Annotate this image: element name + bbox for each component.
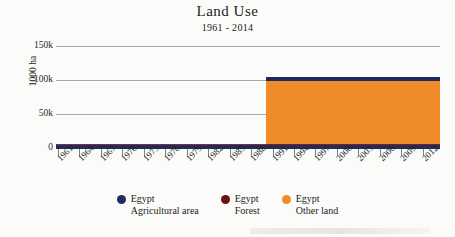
legend-label-country: Egypt [296, 193, 339, 205]
legend-label-metric: Agricultural area [131, 205, 199, 217]
gridline-150k [56, 46, 440, 47]
legend-marker-dot-icon [282, 195, 291, 204]
y-tick-label-0: 0 [5, 142, 53, 152]
y-tick-label-100k: 100k [5, 74, 53, 84]
series-area-other-land [266, 81, 440, 148]
series-area-other-land-cap [266, 77, 440, 81]
chart-legend: EgyptAgricultural areaEgyptForestEgyptOt… [0, 193, 455, 217]
legend-item[interactable]: EgyptForest [221, 193, 260, 217]
gridline-right-extension [430, 46, 440, 47]
x-axis-labels: 1961196419671970197319761979198219851988… [0, 156, 455, 196]
legend-label: EgyptForest [235, 193, 260, 217]
footer-source-sliver [250, 228, 430, 234]
y-tick-label-150k: 150k [5, 40, 53, 50]
legend-label-country: Egypt [131, 193, 199, 205]
plot-area [56, 46, 440, 148]
y-tick-label-50k: 50k [5, 108, 53, 118]
legend-label: EgyptOther land [296, 193, 339, 217]
legend-label-country: Egypt [235, 193, 260, 205]
legend-label-metric: Forest [235, 205, 260, 217]
legend-item[interactable]: EgyptAgricultural area [117, 193, 199, 217]
legend-item[interactable]: EgyptOther land [282, 193, 339, 217]
legend-label: EgyptAgricultural area [131, 193, 199, 217]
legend-marker-dot-icon [117, 195, 126, 204]
land-use-chart: Land Use 1961 - 2014 1000 ha 150k 100k 5… [0, 0, 455, 237]
legend-marker-dot-icon [221, 195, 230, 204]
chart-title: Land Use [0, 3, 455, 20]
legend-label-metric: Other land [296, 205, 339, 217]
chart-subtitle: 1961 - 2014 [0, 22, 455, 33]
